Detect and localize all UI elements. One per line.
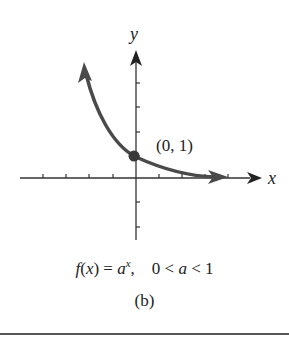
formula-a2: a	[178, 259, 187, 278]
y-axis-label: y	[128, 24, 138, 44]
curve-arrow-up-icon	[78, 62, 92, 83]
exponential-curve	[78, 62, 228, 184]
formula-eq: =	[99, 259, 117, 278]
formula-condition-2: < 1	[187, 259, 214, 278]
point-label: (0, 1)	[156, 136, 193, 155]
point-0-1	[129, 151, 140, 162]
function-formula: f(x) = ax, 0 < a < 1	[0, 257, 289, 279]
graph-canvas: y x (0, 1)	[0, 0, 289, 339]
formula-a: a	[117, 259, 126, 278]
x-axis	[20, 172, 262, 184]
x-axis-label: x	[267, 168, 276, 188]
figure-caption: (b)	[0, 291, 289, 311]
bottom-divider	[0, 333, 289, 335]
y-axis	[130, 50, 142, 240]
formula-condition-1: , 0 <	[131, 259, 179, 278]
